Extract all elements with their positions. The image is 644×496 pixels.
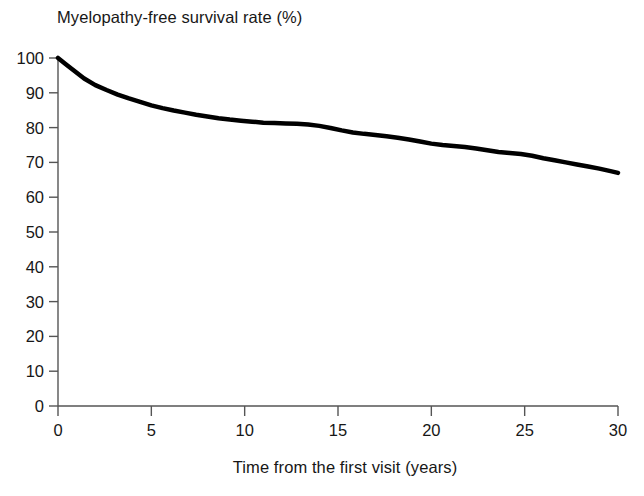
x-tick-label: 30 [609,421,627,439]
x-tick-label: 0 [53,421,62,439]
y-tick-label: 30 [26,293,44,311]
survival-chart: Myelopathy-free survival rate (%) 010203… [0,0,644,496]
x-tick-label: 10 [235,421,253,439]
plot-area: 0102030405060708090100 051015202530 [0,0,644,496]
x-axis: 051015202530 [53,406,627,439]
y-tick-label: 100 [16,49,44,67]
survival-curve [58,58,618,173]
y-tick-label: 50 [26,223,44,241]
y-tick-label: 10 [26,362,44,380]
y-tick-label: 0 [35,397,44,415]
x-tick-label: 5 [147,421,156,439]
y-axis: 0102030405060708090100 [16,49,58,415]
y-tick-label: 80 [26,119,44,137]
y-tick-label: 70 [26,153,44,171]
data-series [58,58,618,173]
y-tick-label: 60 [26,188,44,206]
y-tick-label: 20 [26,327,44,345]
x-tick-label: 25 [515,421,533,439]
x-tick-label: 20 [422,421,440,439]
y-tick-label: 90 [26,84,44,102]
y-tick-label: 40 [26,258,44,276]
x-tick-label: 15 [329,421,347,439]
x-axis-label: Time from the first visit (years) [0,458,644,477]
